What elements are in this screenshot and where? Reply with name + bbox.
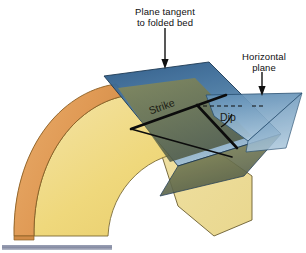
fold-front-cut-edge <box>14 236 34 240</box>
dip-label: Dip <box>220 111 236 123</box>
horizontal-plane-arrow <box>258 72 265 96</box>
tangent-plane-arrow <box>161 28 168 69</box>
geology-figure: Strike Dip Plane tangent to folded bed H… <box>0 0 306 253</box>
tangent-plane-label: Plane tangent to folded bed <box>117 6 213 28</box>
caption-bar <box>2 245 112 250</box>
horizontal-plane-label: Horizontal plane <box>229 51 299 73</box>
strike-dip-diagram: Strike Dip <box>0 0 306 253</box>
